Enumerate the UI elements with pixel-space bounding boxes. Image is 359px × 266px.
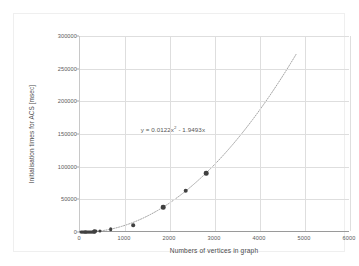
data-point-marker: [204, 171, 209, 176]
chart-frame: 050000100000150000200000250000300000 y =…: [13, 13, 345, 252]
x-axis-title: Numbers of vertices in graph: [79, 247, 349, 254]
data-point-marker: [99, 229, 102, 232]
x-axis-tick-label: 4000: [253, 235, 266, 241]
gridline-horizontal: [80, 36, 349, 37]
data-point-marker: [161, 205, 166, 210]
gridline-horizontal: [80, 167, 349, 168]
x-axis-tick-label: 3000: [208, 235, 221, 241]
plot-area: y = 0.0122x2 - 1.9493x: [79, 36, 349, 232]
y-axis-tick-labels: 050000100000150000200000250000300000: [36, 36, 77, 232]
gridline-horizontal: [80, 134, 349, 135]
x-axis-tick-label: 6000: [343, 235, 356, 241]
data-point-marker: [109, 228, 113, 232]
x-axis-tick-label: 1000: [118, 235, 131, 241]
x-axis-tick-labels: 0100020003000400050006000: [79, 235, 349, 247]
x-axis-tick-label: 5000: [298, 235, 311, 241]
gridline-vertical: [350, 36, 351, 231]
x-axis-tick-label: 2000: [163, 235, 176, 241]
equation-suffix: - 1.9493x: [177, 126, 206, 133]
data-point-marker: [95, 230, 98, 233]
gridline-horizontal: [80, 199, 349, 200]
trendline-equation-label: y = 0.0122x2 - 1.9493x: [141, 125, 205, 133]
gridline-horizontal: [80, 69, 349, 70]
data-point-marker: [131, 224, 135, 228]
x-axis-tick-label: 0: [77, 235, 80, 241]
data-point-marker: [183, 189, 188, 194]
y-axis-title: Initialisation times for ACS [msec]: [28, 36, 42, 232]
gridline-horizontal: [80, 101, 349, 102]
chart-image: 050000100000150000200000250000300000 y =…: [0, 0, 359, 266]
